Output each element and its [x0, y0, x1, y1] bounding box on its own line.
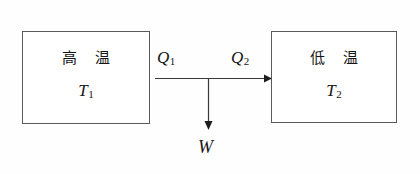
heat-out-subscript: 2 — [243, 55, 249, 67]
heat-out-symbol: Q — [231, 48, 243, 67]
heat-out-label: Q2 — [231, 49, 249, 67]
heat-engine-diagram: 高 温 T1 低 温 T2 Q1 Q2 W — [0, 0, 420, 174]
heat-in-subscript: 1 — [169, 55, 175, 67]
work-output-label: W — [198, 138, 213, 156]
heat-in-label: Q1 — [157, 49, 175, 67]
heat-in-symbol: Q — [157, 48, 169, 67]
vertical-arrowhead-icon — [205, 121, 213, 130]
horizontal-arrowhead-icon — [264, 75, 272, 83]
